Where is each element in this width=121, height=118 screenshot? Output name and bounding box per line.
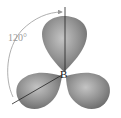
orbital-lobe-bottom-left [16, 73, 62, 109]
angle-label: 120° [8, 32, 27, 43]
central-atom-label: B [60, 68, 67, 80]
orbital-lobe-bottom-right [66, 73, 110, 109]
orbital-lobe-top [42, 16, 87, 72]
sp2-orbital-diagram: 120° B [0, 0, 121, 118]
